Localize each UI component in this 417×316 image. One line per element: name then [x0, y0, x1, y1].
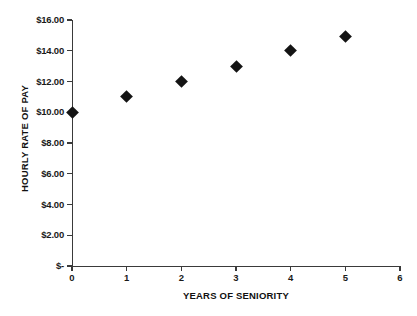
- y-axis-tick-label: $-: [2, 261, 64, 271]
- y-axis-tick: [67, 142, 72, 143]
- y-axis-tick: [67, 204, 72, 205]
- x-axis-tick-label: 4: [279, 272, 303, 284]
- x-axis-tick: [399, 266, 400, 271]
- y-axis-tick-label: $2.00: [2, 230, 64, 240]
- y-axis-tick: [67, 19, 72, 20]
- x-axis-tick-label: 3: [224, 272, 248, 284]
- x-axis-title: YEARS OF SENIORITY: [72, 290, 400, 301]
- y-axis-title: HOURLY RATE OF PAY: [19, 69, 30, 209]
- x-axis-tick-label: 5: [333, 272, 357, 284]
- y-axis-tick: [67, 50, 72, 51]
- x-axis-tick: [126, 266, 127, 271]
- scatter-chart: $-$2.00$4.00$6.00$8.00$10.00$12.00$14.00…: [0, 0, 417, 316]
- y-axis-tick-label: $4.00: [2, 200, 64, 210]
- x-axis-tick-label: 6: [388, 272, 412, 284]
- y-axis-tick: [67, 173, 72, 174]
- y-axis-tick-label: $12.00: [2, 77, 64, 87]
- y-axis-tick-label: $6.00: [2, 169, 64, 179]
- x-axis-tick: [181, 266, 182, 271]
- x-axis-tick-label: 1: [115, 272, 139, 284]
- x-axis-tick: [345, 266, 346, 271]
- x-axis-tick: [71, 266, 72, 271]
- x-axis-tick: [235, 266, 236, 271]
- x-axis-tick: [290, 266, 291, 271]
- x-axis-tick-label: 2: [169, 272, 193, 284]
- y-axis-tick-label: $8.00: [2, 138, 64, 148]
- y-axis-tick-label: $10.00: [2, 107, 64, 117]
- y-axis-tick-label: $14.00: [2, 46, 64, 56]
- y-axis-tick-label: $16.00: [2, 15, 64, 25]
- x-axis-tick-label: 0: [60, 272, 84, 284]
- y-axis-tick: [67, 81, 72, 82]
- y-axis-line: [72, 20, 73, 266]
- y-axis-tick: [67, 235, 72, 236]
